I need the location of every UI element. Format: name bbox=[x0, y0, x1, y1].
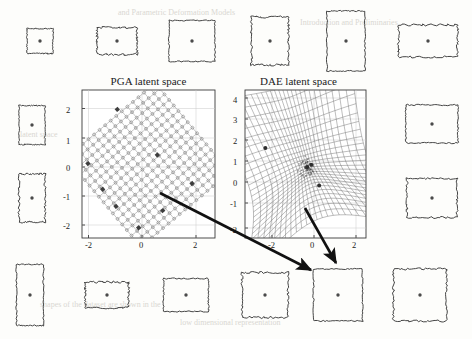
figure-container: and Parametric Deformation Models Introd… bbox=[0, 0, 472, 339]
figure-svg bbox=[0, 0, 472, 339]
shape-centroid-dot bbox=[430, 122, 433, 125]
shape-rect-tall-large bbox=[326, 10, 365, 71]
shape-rect-tall-left-upper bbox=[19, 105, 46, 145]
shape-centroid-dot bbox=[30, 196, 33, 199]
shape-rect-wide-bottom-3 bbox=[163, 278, 209, 312]
shape-rect-wide-right-upper bbox=[405, 104, 458, 143]
shape-centroid-dot bbox=[115, 39, 118, 42]
shape-centroid-dot bbox=[38, 39, 41, 42]
shape-centroid-dot bbox=[184, 293, 187, 296]
shape-rect-tall-bottom-1 bbox=[16, 264, 44, 326]
shape-centroid-dot bbox=[336, 293, 339, 296]
shape-centroid-dot bbox=[344, 39, 347, 42]
shape-square-bottom-4 bbox=[241, 271, 289, 318]
pga-plot-frame bbox=[82, 90, 215, 238]
shape-rect-wide-small bbox=[96, 27, 138, 56]
shape-centroid-dot bbox=[190, 39, 193, 42]
shape-rect-tall-left-lower bbox=[18, 173, 46, 223]
shape-centroid-dot bbox=[268, 39, 271, 42]
shape-square-small bbox=[26, 28, 53, 54]
shape-rect-tall-medium bbox=[250, 16, 289, 66]
shape-square-bottom-5 bbox=[313, 268, 363, 321]
shape-rect-wide-large bbox=[397, 24, 458, 58]
shape-rect-wide-bottom-2 bbox=[84, 281, 129, 309]
shape-centroid-dot bbox=[30, 123, 33, 126]
shape-centroid-dot bbox=[418, 293, 421, 296]
shape-rect-wide-right-lower bbox=[406, 178, 458, 219]
shape-square-medium bbox=[168, 20, 215, 62]
shape-centroid-dot bbox=[28, 293, 31, 296]
shape-centroid-dot bbox=[426, 39, 429, 42]
shape-centroid-dot bbox=[105, 293, 108, 296]
shape-centroid-dot bbox=[263, 293, 266, 296]
shape-square-bottom-6 bbox=[392, 268, 447, 322]
shape-centroid-dot bbox=[430, 196, 433, 199]
